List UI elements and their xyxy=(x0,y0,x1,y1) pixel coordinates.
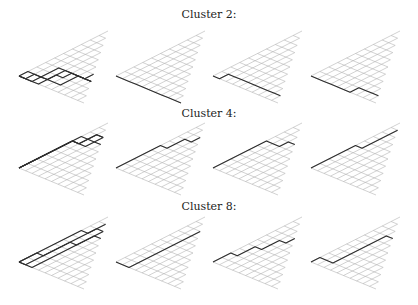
grid-line xyxy=(258,146,291,160)
grid-line xyxy=(136,145,198,177)
grid-line xyxy=(324,45,395,81)
lattice-panel xyxy=(116,217,205,289)
grid-line xyxy=(142,152,195,179)
grid-line xyxy=(196,222,203,225)
grid-line xyxy=(78,282,87,287)
grid-line xyxy=(123,38,203,78)
grid-line xyxy=(258,240,291,254)
grid-line xyxy=(175,96,184,101)
lattice-path xyxy=(213,74,280,96)
lattice-panel xyxy=(311,217,400,289)
grid-line xyxy=(318,38,398,78)
lattice-path xyxy=(116,76,181,103)
grid-line xyxy=(99,128,106,131)
grid-line xyxy=(391,36,398,39)
lattice-panel xyxy=(116,123,205,195)
grid-line xyxy=(142,246,195,273)
grid-line xyxy=(356,240,389,254)
grid-line xyxy=(136,239,198,271)
grid-line xyxy=(324,137,395,173)
grid-line xyxy=(258,54,291,68)
lattice-panel xyxy=(213,31,302,103)
grid-line xyxy=(337,60,390,87)
grid-line xyxy=(272,188,281,193)
grid-line xyxy=(246,253,291,276)
grid-line xyxy=(239,152,292,179)
lattice-panel xyxy=(311,31,400,103)
grid-line xyxy=(99,36,106,39)
grid-line xyxy=(78,96,87,101)
grid-line xyxy=(318,224,398,265)
grid-line xyxy=(293,222,300,225)
grid-line xyxy=(391,128,398,131)
lattice-panel xyxy=(311,123,400,195)
grid-line xyxy=(233,145,295,177)
grid-line xyxy=(272,96,281,101)
grid-line xyxy=(311,217,400,262)
grid-line xyxy=(293,128,300,131)
grid-line xyxy=(331,145,393,177)
grid-line xyxy=(311,31,400,76)
lattice-path xyxy=(19,231,103,262)
grid-line xyxy=(344,67,389,90)
grid-line xyxy=(123,130,203,171)
grid-line xyxy=(52,253,97,276)
grid-line xyxy=(370,188,379,193)
grid-line xyxy=(45,246,98,273)
grid-line xyxy=(26,38,106,78)
lattice-figure xyxy=(0,0,418,305)
grid-line xyxy=(142,60,195,87)
lattice-path xyxy=(311,76,378,96)
lattice-path xyxy=(19,135,103,168)
grid-line xyxy=(246,67,291,90)
grid-line xyxy=(116,31,205,76)
lattice-path xyxy=(19,73,94,79)
grid-line xyxy=(52,159,97,182)
grid-line xyxy=(64,54,97,68)
grid-line xyxy=(175,188,184,193)
grid-line xyxy=(331,239,393,271)
lattice-path xyxy=(19,135,103,168)
grid-line xyxy=(39,239,101,271)
grid-line xyxy=(64,240,97,254)
grid-line xyxy=(78,188,87,193)
grid-line xyxy=(161,240,194,254)
grid-line xyxy=(116,217,205,262)
grid-line xyxy=(370,96,379,101)
grid-line xyxy=(129,137,200,173)
grid-line xyxy=(226,45,297,81)
lattice-panel xyxy=(19,217,108,289)
grid-line xyxy=(337,152,390,179)
grid-line xyxy=(220,38,300,78)
grid-line xyxy=(175,282,184,287)
grid-line xyxy=(129,45,200,81)
grid-line xyxy=(196,128,203,131)
grid-line xyxy=(123,224,203,265)
grid-line xyxy=(391,222,398,225)
lattice-path xyxy=(19,229,103,262)
grid-line xyxy=(99,222,106,225)
grid-line xyxy=(149,67,194,90)
grid-line xyxy=(239,246,292,273)
grid-line xyxy=(239,60,292,87)
lattice-panel xyxy=(213,217,302,289)
lattice-panel xyxy=(19,31,108,103)
grid-line xyxy=(220,130,300,171)
lattice-panel xyxy=(116,31,205,103)
grid-line xyxy=(64,146,97,160)
grid-line xyxy=(45,152,98,179)
grid-line xyxy=(196,36,203,39)
grid-line xyxy=(331,53,393,85)
grid-line xyxy=(213,31,302,76)
grid-line xyxy=(344,159,389,182)
lattice-path xyxy=(19,76,91,85)
grid-line xyxy=(39,145,101,177)
lattice-panel xyxy=(213,123,302,195)
grid-line xyxy=(220,224,300,265)
grid-line xyxy=(293,36,300,39)
grid-line xyxy=(356,54,389,68)
grid-line xyxy=(19,31,108,76)
lattice-panel xyxy=(19,123,108,195)
lattice-path xyxy=(311,236,393,263)
grid-line xyxy=(272,282,281,287)
